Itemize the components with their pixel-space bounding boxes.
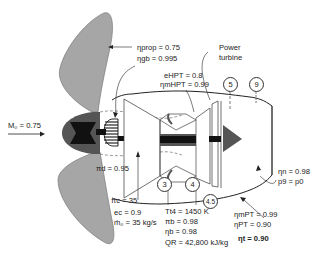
station-4-5: 4.5 bbox=[203, 194, 218, 209]
pi-c-label: πc = 35 bbox=[111, 196, 137, 205]
turboprop-diagram: M₀ = 0.75 ηprop = 0.75 ηgb = 0.995 Power… bbox=[0, 0, 313, 254]
station-3: 3 bbox=[157, 177, 172, 192]
eta-pt-label: ηPT = 0.90 bbox=[234, 220, 271, 229]
eta-n-label: ηn = 0.98 bbox=[278, 167, 310, 176]
gearbox bbox=[104, 119, 118, 146]
fuel-injector-upper bbox=[168, 114, 172, 124]
pi-d-label: πd = 0.95 bbox=[96, 164, 129, 173]
eta-gb-label: ηgb = 0.995 bbox=[137, 54, 177, 63]
e-hpt-label: eHPT = 0.8 bbox=[164, 71, 202, 80]
tt4-label: Tt4 = 1450 K bbox=[165, 207, 209, 216]
propeller-shaft bbox=[96, 129, 106, 135]
power-turbine-shaft bbox=[209, 136, 221, 142]
station-9: 9 bbox=[249, 77, 264, 92]
burner bbox=[160, 114, 196, 182]
mdot-label: ṁ₀ = 35 kg/s bbox=[114, 218, 157, 227]
propeller-blade-upper bbox=[59, 13, 112, 112]
freestream-arrowhead bbox=[40, 132, 45, 137]
high-pressure-turbine bbox=[196, 108, 210, 184]
eta-mhpt-label: ηmHPT = 0.99 bbox=[160, 80, 209, 89]
compressor bbox=[124, 99, 160, 198]
station-4: 4 bbox=[185, 177, 200, 192]
eta-mpt-label: ηmPT = 0.99 bbox=[234, 210, 278, 219]
power-turbine-label-1: Power bbox=[219, 43, 241, 52]
mach-label: M₀ = 0.75 bbox=[8, 121, 41, 130]
e-c-label: ec = 0.9 bbox=[114, 208, 141, 217]
p9-label: p9 = p0 bbox=[278, 177, 304, 186]
nozzle-flow-arrow bbox=[223, 125, 242, 152]
eta-prop-label: ηprop = 0.75 bbox=[137, 43, 180, 52]
qr-label: QR = 42,800 kJ/kg bbox=[165, 238, 228, 247]
core-shaft bbox=[160, 136, 196, 143]
pi-b-label: πb = 0.98 bbox=[165, 217, 198, 226]
eta-b-label: ηb = 0.98 bbox=[165, 227, 197, 236]
power-turbine-label-2: turbine bbox=[219, 53, 242, 62]
power-turbine bbox=[212, 101, 221, 188]
eta-t-label: ηt = 0.90 bbox=[238, 234, 269, 243]
station-5: 5 bbox=[223, 77, 238, 92]
